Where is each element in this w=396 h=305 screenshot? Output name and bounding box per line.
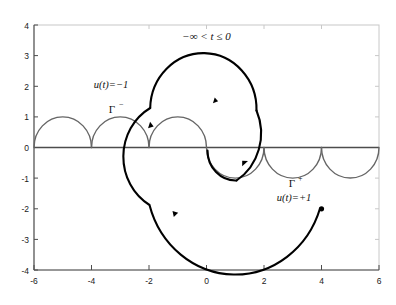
x-tick-labels: -6 -4 -2 0 2 4 6 <box>30 276 381 286</box>
x-tick-label: 0 <box>204 276 209 286</box>
y-tick-label: -1 <box>21 174 29 184</box>
gamma-plus-label: Γ <box>289 177 295 189</box>
plot-title: −∞ < t ≤ 0 <box>182 30 231 42</box>
u-plus-annotation: u(t)=+1 <box>277 192 312 204</box>
x-tick-label: 6 <box>377 276 382 286</box>
phase-plane-plot: 4 3 2 1 0 -1 -2 -3 -4 -6 -4 -2 0 2 4 6 <box>0 0 396 305</box>
x-tick-label: -2 <box>145 276 153 286</box>
gamma-minus-label: Γ <box>109 103 115 115</box>
u-minus-label: u(t)=−1 <box>94 79 129 91</box>
u-plus-label: u(t)=+1 <box>277 192 312 204</box>
y-tick-label: 0 <box>24 143 29 153</box>
y-tick-labels: 4 3 2 1 0 -1 -2 -3 -4 <box>21 21 29 276</box>
figure-container: 4 3 2 1 0 -1 -2 -3 -4 -6 -4 -2 0 2 4 6 <box>0 0 396 305</box>
y-tick-label: -2 <box>21 204 29 214</box>
plot-title-text: −∞ < t ≤ 0 <box>182 30 231 42</box>
y-tick-label: -3 <box>21 235 29 245</box>
y-tick-label: 2 <box>24 82 29 92</box>
x-tick-label: 2 <box>262 276 267 286</box>
u-minus-annotation: u(t)=−1 <box>94 79 129 91</box>
x-tick-label: -6 <box>30 276 38 286</box>
y-tick-label: -4 <box>21 266 29 276</box>
y-tick-label: 1 <box>24 112 29 122</box>
y-tick-label: 4 <box>24 21 29 31</box>
y-tick-label: 3 <box>24 51 29 61</box>
x-tick-label: -4 <box>88 276 96 286</box>
x-tick-label: 4 <box>319 276 324 286</box>
trajectory-endpoint-marker <box>319 206 324 211</box>
gamma-minus-superscript: − <box>119 100 124 109</box>
gamma-plus-superscript: + <box>298 174 303 183</box>
